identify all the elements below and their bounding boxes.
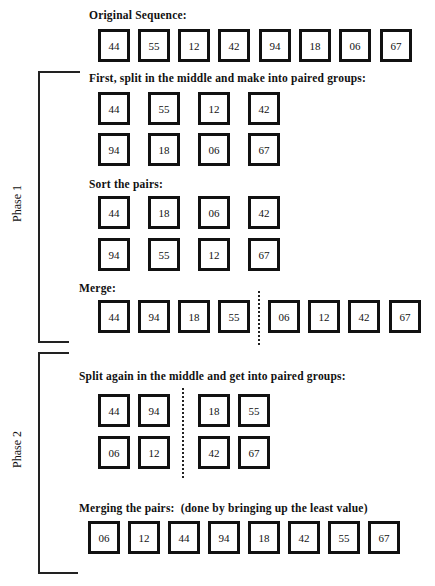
value-box: 12	[198, 92, 230, 125]
value-box: 94	[138, 300, 170, 333]
value-box: 55	[148, 238, 180, 271]
value-box: 55	[238, 394, 270, 427]
value-box: 44	[168, 521, 200, 554]
phase1-label: Phase 1	[10, 174, 25, 234]
bracket-bottom-arm	[38, 572, 78, 574]
value-box: 94	[98, 133, 130, 166]
value-box: 94	[98, 238, 130, 271]
value-box: 67	[248, 238, 280, 271]
value-box: 18	[248, 521, 280, 554]
value-box: 67	[238, 436, 270, 469]
value-box: 44	[98, 196, 130, 229]
value-box: 42	[248, 196, 280, 229]
value-box: 06	[198, 133, 230, 166]
value-box: 18	[198, 394, 230, 427]
value-box: 67	[389, 300, 421, 333]
value-box: 67	[380, 29, 412, 62]
phase2-split-heading: Split again in the middle and get into p…	[79, 369, 346, 383]
value-box: 12	[138, 436, 170, 469]
phase1-sort-heading: Sort the pairs:	[89, 177, 163, 191]
value-box: 67	[248, 133, 280, 166]
value-box: 94	[259, 29, 291, 62]
bracket-top-arm	[38, 352, 69, 354]
bracket-spine	[38, 71, 40, 342]
value-box: 42	[348, 300, 380, 333]
value-box: 55	[138, 29, 170, 62]
value-box: 06	[268, 300, 300, 333]
value-box: 55	[328, 521, 360, 554]
phase2-merge-heading: Merging the pairs: (done by bringing up …	[79, 501, 368, 515]
value-box: 18	[148, 196, 180, 229]
value-box: 06	[98, 436, 130, 469]
value-box: 55	[148, 92, 180, 125]
bracket-bottom-arm	[38, 341, 69, 343]
bracket-top-arm	[38, 71, 80, 73]
value-box: 67	[368, 521, 400, 554]
value-box: 12	[198, 238, 230, 271]
value-box: 44	[98, 300, 130, 333]
value-box: 55	[218, 300, 250, 333]
value-box: 18	[148, 133, 180, 166]
value-box: 44	[98, 394, 130, 427]
value-box: 18	[178, 300, 210, 333]
value-box: 12	[308, 300, 340, 333]
value-box: 06	[339, 29, 371, 62]
value-box: 12	[178, 29, 210, 62]
value-box: 06	[88, 521, 120, 554]
value-box: 94	[208, 521, 240, 554]
value-box: 42	[248, 92, 280, 125]
split-divider	[182, 388, 184, 478]
value-box: 42	[198, 436, 230, 469]
bracket-spine	[38, 352, 40, 573]
phase1-merge-heading: Merge:	[79, 281, 116, 295]
value-box: 42	[218, 29, 250, 62]
value-box: 12	[128, 521, 160, 554]
original-sequence-heading: Original Sequence:	[89, 8, 187, 22]
value-box: 06	[198, 196, 230, 229]
value-box: 42	[288, 521, 320, 554]
value-box: 94	[138, 394, 170, 427]
value-box: 44	[98, 92, 130, 125]
value-box: 18	[299, 29, 331, 62]
split-divider	[258, 291, 260, 345]
phase1-split-heading: First, split in the middle and make into…	[89, 71, 366, 85]
phase2-label: Phase 2	[10, 420, 25, 480]
value-box: 44	[98, 29, 130, 62]
